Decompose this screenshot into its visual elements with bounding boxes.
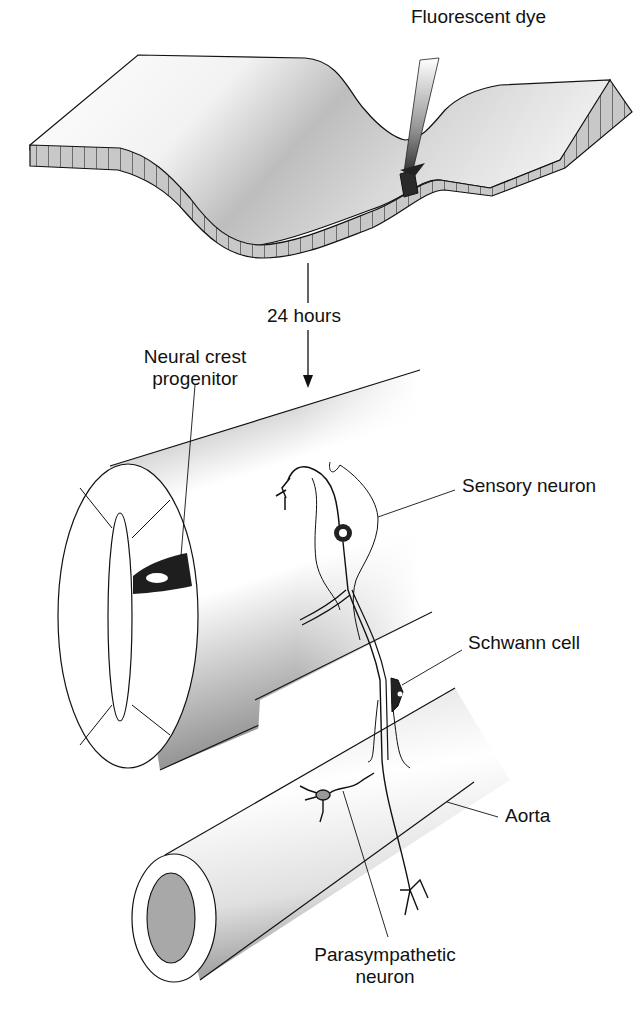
time-label: 24 hours — [267, 305, 341, 327]
aorta-label: Aorta — [505, 805, 550, 827]
sensory-neuron-label: Sensory neuron — [462, 475, 596, 497]
progenitor-label-line2: progenitor — [135, 368, 255, 390]
neural-crest-diagram — [0, 0, 634, 1012]
parasympathetic-neuron-label: Parasympathetic neuron — [305, 944, 465, 988]
parasympathetic-label-line2: neuron — [305, 966, 465, 988]
parasympathetic-label-line1: Parasympathetic — [305, 944, 465, 966]
neural-crest-progenitor-label: Neural crest progenitor — [135, 346, 255, 390]
schwann-cell-label: Schwann cell — [468, 632, 580, 654]
progenitor-label-line1: Neural crest — [135, 346, 255, 368]
fluorescent-dye-label: Fluorescent dye — [411, 6, 546, 28]
epithelial-sheet — [30, 55, 632, 258]
